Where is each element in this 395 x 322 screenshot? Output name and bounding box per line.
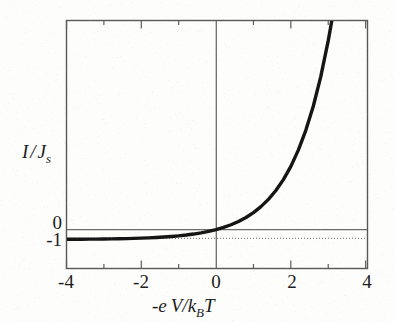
y-axis-title-subscript: s — [46, 151, 51, 166]
y-tick-label-neg1: -1 — [33, 230, 62, 249]
y-axis-title-saturation: J — [38, 141, 46, 162]
x-tick-label-neg4: -4 — [58, 272, 74, 291]
y-axis-title-slash: / — [28, 141, 37, 162]
x-axis-title-voltage-over-k: V/k — [171, 295, 196, 316]
x-axis-title: -eV/kBT — [152, 296, 215, 319]
x-tick-label-pos2: 2 — [287, 272, 297, 291]
x-tick-label-zero: 0 — [211, 272, 221, 291]
plot-frame — [67, 21, 368, 269]
x-tick-label-pos4: 4 — [362, 272, 372, 291]
diode-characteristic-curve — [67, 20, 332, 240]
x-axis-title-subscript: B — [196, 305, 204, 320]
x-axis-title-charge: -e — [152, 295, 167, 316]
figure-container: -4 -2 0 2 4 0 -1 I/Js -eV/kBT — [0, 0, 395, 322]
y-axis-title: I/Js — [22, 142, 51, 165]
x-axis-title-temperature: T — [204, 295, 215, 316]
x-tick-label-neg2: -2 — [133, 272, 149, 291]
